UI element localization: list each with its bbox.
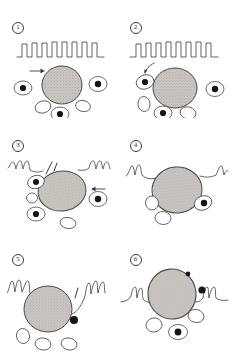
panel-2-small-cell-bottom [154,106,172,118]
panel-2: 2 [118,0,236,118]
panel-5-epithelium-right [72,281,105,314]
panel-5-small-cell-right [70,316,78,324]
panel-6-blank-oval-a [144,317,162,334]
panel-1-big-cell [42,66,82,104]
panel-3-number: 3 [12,140,24,152]
panel-3-small-cell-right [89,192,107,207]
panel-5: 5 [0,236,118,354]
panel-3-blank-oval-a [27,193,38,203]
panel-1-arrow [30,69,45,74]
panel-6-apex-mark [185,272,190,277]
panel-4-number: 4 [130,140,142,152]
panel-2-big-cell [153,68,197,108]
panel-6: 6 [118,236,236,354]
panel-1-number: 1 [12,22,24,34]
panel-1-blank-oval-b [75,99,92,113]
panel-3-arrow [92,187,106,192]
panel-5-number: 5 [12,254,24,266]
panel-3-small-cell-lowerleft [27,207,45,221]
panel-2-blank-oval-a [137,96,151,113]
panel-5-epithelium-left [7,280,30,293]
panel-3-epithelium-left [8,161,43,172]
panel-6-small-cell-bottom [168,325,187,340]
panel-5-blank-oval-a [16,328,31,345]
panel-5-blank-oval-b [34,337,52,351]
panel-1-epithelium [17,42,104,57]
panel-4-epithelium-right [200,166,228,177]
panel-2-arrow [144,63,154,74]
panel-3-big-cell [35,168,88,214]
panel-6-small-cell-right [198,286,205,293]
panel-2-number: 2 [130,22,142,34]
panel-4-blank-oval-b [154,211,171,226]
panel-3-epithelium-right [78,161,110,170]
panel-3-blank-oval-b [59,216,77,230]
panel-1-small-cell-bottom [51,107,69,118]
panel-6-number: 6 [130,254,142,266]
panel-4: 4 [118,118,236,236]
panel-5-stroke [75,288,78,298]
panel-2-small-cell-right [206,82,224,97]
panel-5-blank-oval-c [60,336,78,351]
panel-1-small-cell-left [14,81,32,95]
panel-1-blank-oval-a [34,99,53,115]
panel-grid: 1 [0,0,235,354]
panel-5-big-cell [24,286,72,332]
panel-2-epithelium [130,42,218,57]
panel-1-small-cell-right [89,77,107,92]
panel-3: 3 [0,118,118,236]
panel-1: 1 [0,0,118,118]
figure-root: 1 [0,0,235,354]
panel-4-epithelium-left [126,165,156,179]
